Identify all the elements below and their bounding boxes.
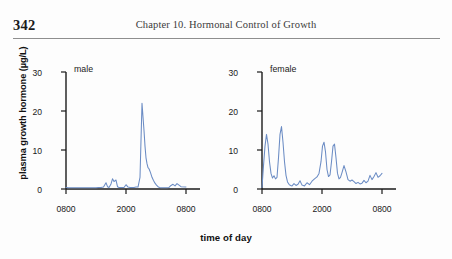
x-tick-label-0800-female: 0800 bbox=[247, 204, 277, 214]
panel-female-label: female bbox=[270, 64, 296, 74]
y-tick-label-0-male: 0 bbox=[24, 185, 42, 195]
panel-male: male 30 20 10 0 0800 2000 0800 bbox=[22, 44, 212, 204]
y-tick-label-20-female: 20 bbox=[220, 107, 238, 117]
y-tick-label-20-male: 20 bbox=[24, 107, 42, 117]
panel-male-label: male bbox=[74, 64, 93, 74]
y-tick-label-0-female: 0 bbox=[220, 185, 238, 195]
panel-female: female 30 20 10 0 0800 2000 0800 bbox=[218, 44, 408, 204]
y-tick-label-30-male: 30 bbox=[24, 68, 42, 78]
running-head: Chapter 10. Hormonal Control of Growth bbox=[0, 19, 452, 30]
figure-growth-hormone-profiles: plasma growth hormone (µg/L) time of day… bbox=[0, 44, 452, 259]
x-axis-title: time of day bbox=[0, 232, 452, 243]
y-tick-label-10-male: 10 bbox=[24, 146, 42, 156]
female-plot-area bbox=[218, 44, 408, 204]
x-tick-label-2000-male: 2000 bbox=[111, 204, 141, 214]
page-header: 342 Chapter 10. Hormonal Control of Grow… bbox=[0, 0, 452, 44]
male-plot-area bbox=[22, 44, 212, 204]
x-tick-label-2000-female: 2000 bbox=[307, 204, 337, 214]
header-rule-divider bbox=[13, 38, 440, 39]
x-tick-label-0800-male: 0800 bbox=[51, 204, 81, 214]
y-tick-label-10-female: 10 bbox=[220, 146, 238, 156]
x-tick-label-0800b-male: 0800 bbox=[171, 204, 201, 214]
y-tick-label-30-female: 30 bbox=[220, 68, 238, 78]
x-tick-label-0800b-female: 0800 bbox=[367, 204, 397, 214]
